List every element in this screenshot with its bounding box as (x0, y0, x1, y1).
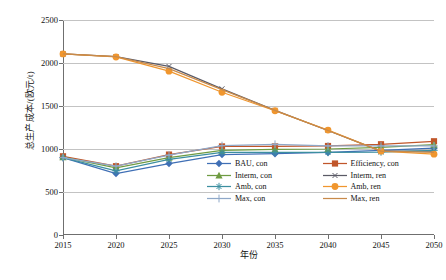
legend-marker-icon (322, 193, 348, 204)
x-axis-title: 年份 (63, 248, 434, 261)
legend-label: Max, ren (351, 193, 380, 205)
legend-item[interactable]: Max, con (206, 193, 316, 205)
chart-legend: BAU, conEfficiency, conInterm, conInterm… (206, 158, 431, 204)
legend-item[interactable]: Interm, con (206, 170, 316, 182)
legend-marker-icon (322, 170, 348, 181)
series-line (63, 54, 434, 151)
legend-label: Interm, con (235, 170, 272, 182)
x-tick-mark (116, 235, 117, 239)
legend-item[interactable]: Efficiency, con (322, 158, 432, 170)
x-tick-mark (434, 235, 435, 239)
legend-label: Interm, ren (351, 170, 387, 182)
legend-marker-icon (206, 181, 232, 192)
x-tick-mark (63, 235, 64, 239)
legend-label: Amb, con (235, 181, 267, 193)
x-tick-mark (169, 235, 170, 239)
legend-label: Efficiency, con (351, 158, 399, 170)
legend-item[interactable]: Amb, ren (322, 181, 432, 193)
legend-label: Max, con (235, 193, 265, 205)
y-tick-label: 500 (45, 187, 58, 197)
x-tick-mark (328, 235, 329, 239)
y-tick-label: 0 (54, 230, 58, 240)
legend-marker-icon (206, 158, 232, 169)
y-tick-label: 1000 (41, 144, 58, 154)
legend-label: BAU, con (235, 158, 267, 170)
series-max-ren (63, 54, 434, 152)
x-tick-mark (222, 235, 223, 239)
legend-marker-icon (322, 158, 348, 169)
legend-item[interactable]: Amb, con (206, 181, 316, 193)
legend-marker-icon (206, 193, 232, 204)
legend-marker-icon (322, 181, 348, 192)
chart-figure: 总生产成本/(欧元/t) 05001000150020002500 201520… (0, 0, 446, 280)
y-tick-label: 1500 (41, 101, 58, 111)
series-interm-ren (61, 51, 437, 153)
x-tick-mark (381, 235, 382, 239)
legend-item[interactable]: Max, ren (322, 193, 432, 205)
legend-marker-icon (206, 170, 232, 181)
y-tick-label: 2000 (41, 58, 58, 68)
legend-label: Amb, ren (351, 181, 381, 193)
legend-item[interactable]: Interm, ren (322, 170, 432, 182)
y-axis-title: 总生产成本/(欧元/t) (23, 36, 36, 186)
legend-item[interactable]: BAU, con (206, 158, 316, 170)
series-line (63, 54, 434, 152)
y-tick-label: 2500 (41, 15, 58, 25)
series-line (63, 54, 434, 154)
x-tick-mark (275, 235, 276, 239)
